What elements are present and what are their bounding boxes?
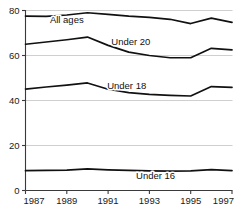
line-chart: 020406080 198719891991199319951997 All a…: [0, 0, 237, 220]
series-label-under-20: Under 20: [111, 36, 150, 47]
series-label-under-16: Under 16: [136, 170, 175, 181]
x-tick-label-1989: 1989: [56, 195, 77, 206]
gridlines: [26, 11, 233, 146]
x-axis-tick-labels: 198719891991199319951997: [24, 195, 235, 206]
x-tick-label-1993: 1993: [139, 195, 160, 206]
x-tick-label-1987: 1987: [24, 195, 45, 206]
y-tick-label-80: 80: [9, 5, 20, 16]
y-tick-label-40: 40: [9, 95, 20, 106]
series-label-all-ages: All ages: [50, 14, 84, 25]
chart-canvas: 020406080 198719891991199319951997 All a…: [0, 0, 237, 220]
series-line-under-16: [26, 169, 233, 171]
y-tick-label-60: 60: [9, 50, 20, 61]
y-axis-tick-labels: 020406080: [9, 5, 20, 196]
y-tick-label-20: 20: [9, 140, 20, 151]
x-tick-label-1991: 1991: [98, 195, 119, 206]
series-label-under-18: Under 18: [107, 80, 146, 91]
x-tick-label-1997: 1997: [213, 195, 234, 206]
x-tick-label-1995: 1995: [180, 195, 201, 206]
y-tick-label-0: 0: [14, 185, 19, 196]
